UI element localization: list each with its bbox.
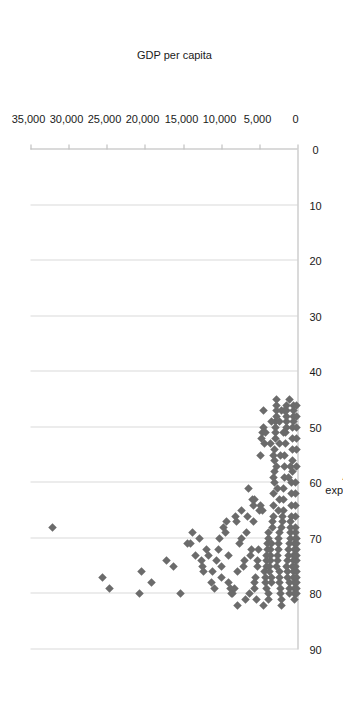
data-point <box>253 556 261 564</box>
data-point <box>223 550 231 558</box>
gridline-life-expectancy <box>30 259 297 260</box>
x-axis-title: Average life expectancy at birth <box>301 468 343 496</box>
data-point <box>162 556 170 564</box>
data-point <box>98 573 106 581</box>
x-tick-label: 0 <box>300 143 330 155</box>
data-point <box>237 506 245 514</box>
x-tick-label: 90 <box>300 643 330 655</box>
chart-canvas: 908070605040302010005,00010,00015,00020,… <box>0 0 343 704</box>
data-point <box>208 567 216 575</box>
data-point <box>264 595 272 603</box>
data-point <box>256 450 264 458</box>
y-axis-line <box>30 148 297 149</box>
data-point <box>176 589 184 597</box>
x-tick-label: 40 <box>300 365 330 377</box>
plot-area <box>30 149 297 649</box>
data-point <box>259 406 267 414</box>
gridline-life-expectancy <box>30 481 297 482</box>
data-point <box>188 528 196 536</box>
data-point <box>191 550 199 558</box>
data-point <box>252 595 260 603</box>
data-point <box>135 589 143 597</box>
y-axis-title: GDP per capita <box>119 47 229 61</box>
data-point <box>168 561 176 569</box>
gridline-life-expectancy <box>30 537 297 538</box>
x-tick-label: 20 <box>300 254 330 266</box>
gridline-life-expectancy <box>30 592 297 593</box>
data-point <box>217 573 225 581</box>
x-tick-label: 70 <box>300 532 330 544</box>
data-point <box>213 545 221 553</box>
gridline-life-expectancy <box>30 370 297 371</box>
data-point <box>244 484 252 492</box>
data-point <box>277 600 285 608</box>
gridline-life-expectancy <box>30 204 297 205</box>
scatter-chart: 908070605040302010005,00010,00015,00020,… <box>0 0 343 704</box>
data-point <box>136 567 144 575</box>
data-point <box>48 523 56 531</box>
data-point <box>215 534 223 542</box>
data-point <box>254 545 262 553</box>
data-point <box>105 584 113 592</box>
x-tick-label: 50 <box>300 421 330 433</box>
gridline-life-expectancy <box>30 648 297 649</box>
data-point <box>232 600 240 608</box>
data-point <box>194 534 202 542</box>
x-tick-label: 30 <box>300 310 330 322</box>
gridline-life-expectancy <box>30 426 297 427</box>
data-point <box>147 578 155 586</box>
y-tick-label: 35,000 <box>5 112 51 124</box>
x-tick-label: 80 <box>300 587 330 599</box>
data-point <box>272 395 280 403</box>
x-tick-label: 10 <box>300 199 330 211</box>
gridline-life-expectancy <box>30 315 297 316</box>
